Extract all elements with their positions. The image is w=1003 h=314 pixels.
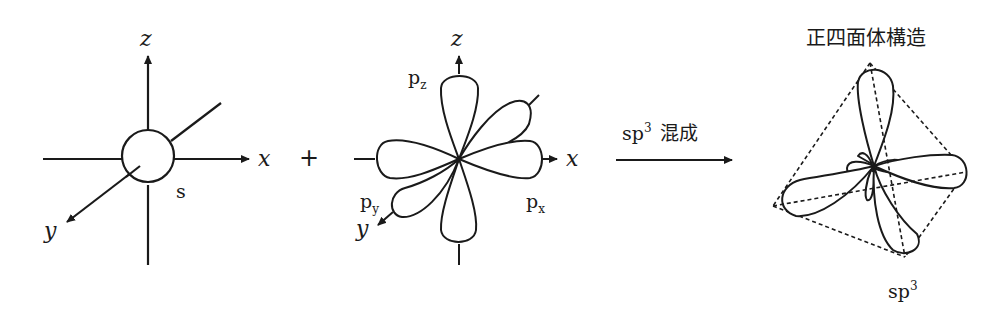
tetrahedral-structure-title: 正四面体構造 [806, 28, 926, 48]
s-panel-z-label: z [140, 28, 152, 50]
y-axis-back [171, 103, 221, 141]
s-orbital-label: s [176, 182, 186, 201]
sp3-hybrid-panel [773, 63, 967, 257]
plus-operator: + [299, 146, 319, 170]
pz-label: pz [408, 68, 427, 91]
p-orbital-panel [354, 56, 557, 265]
y-axis-arrow [378, 212, 393, 225]
px-label: px [526, 192, 545, 215]
p-panel-z-label: z [451, 28, 463, 50]
p-panel-x-label: x [566, 148, 578, 170]
hybridization-label: sp3混成 [622, 122, 698, 143]
p-panel-y-label: y [356, 218, 368, 240]
s-panel-x-label: x [258, 148, 270, 170]
s-orbital-panel [43, 56, 249, 265]
py-label: py [360, 192, 379, 215]
s-panel-y-label: y [44, 220, 56, 242]
sp3-label: sp3 [888, 280, 918, 301]
sp3-upper-lobe [858, 70, 894, 166]
